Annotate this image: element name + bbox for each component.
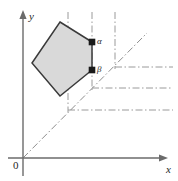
- y-axis-label: y: [29, 11, 34, 22]
- beta-point-label: β: [97, 65, 101, 74]
- shaded-pentagon: [32, 22, 92, 96]
- alpha-point-marker: [89, 39, 96, 46]
- beta-point-marker: [89, 67, 96, 74]
- coordinate-figure-svg: [0, 0, 178, 181]
- figure-container: y x 0 α β: [0, 0, 178, 181]
- x-axis: [8, 154, 168, 161]
- y-axis: [19, 10, 26, 176]
- origin-label: 0: [13, 160, 19, 171]
- y-axis-arrowhead: [19, 10, 26, 19]
- x-axis-label: x: [166, 164, 171, 175]
- x-axis-arrowhead: [159, 154, 168, 161]
- alpha-point-label: α: [97, 37, 102, 46]
